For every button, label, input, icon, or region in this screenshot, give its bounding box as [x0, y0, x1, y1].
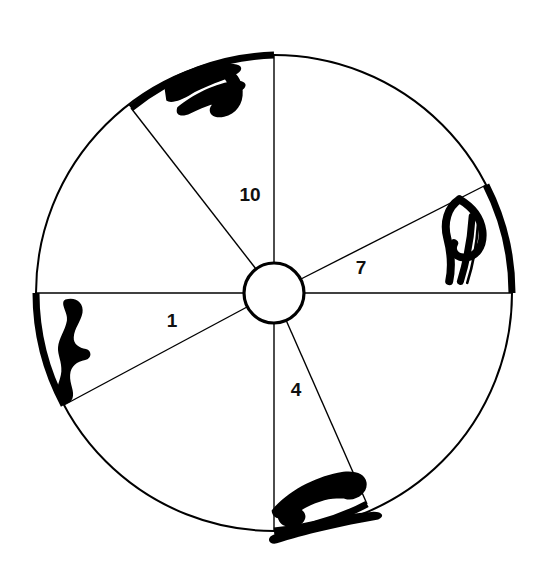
chart-wheel-figure: 1 4 7 10	[0, 0, 548, 583]
house-number-10: 10	[239, 184, 260, 205]
house-number-7: 7	[356, 257, 367, 278]
house-number-1: 1	[167, 310, 178, 331]
center-hub-circle	[244, 263, 304, 323]
house-number-4: 4	[291, 379, 302, 400]
astrology-wheel-svg: 1 4 7 10	[0, 0, 548, 583]
